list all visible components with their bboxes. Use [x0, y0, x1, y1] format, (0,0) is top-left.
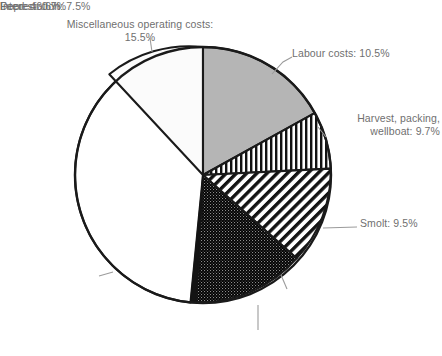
slice-label-miscellaneous-line2: 15.5% [125, 31, 155, 43]
slice-label-harvest-line2: wellboat: 9.7% [370, 125, 440, 137]
slice-label-feed: Feed: 46.6% [0, 0, 61, 13]
slice-label-labour-costs: Labour costs: 10.5% [292, 47, 440, 60]
pie-chart-figure: Miscellaneous operating costs:15.5% Labo… [0, 0, 442, 356]
slice-label-smolt: Smolt: 9.5% [360, 217, 440, 230]
leader-line-smolt [323, 227, 357, 228]
slice-label-harvest-packing-wellboat: Harvest, packing,wellboat: 9.7% [318, 112, 440, 138]
slice-label-miscellaneous-line1: Miscellaneous operating costs: [67, 18, 214, 30]
leader-line-feed [99, 272, 113, 276]
slice-label-miscellaneous-operating-costs: Miscellaneous operating costs:15.5% [42, 18, 238, 44]
slice-label-harvest-line1: Harvest, packing, [357, 112, 440, 124]
leader-line-depreciation [281, 275, 287, 289]
leader-line-labour [272, 57, 292, 74]
